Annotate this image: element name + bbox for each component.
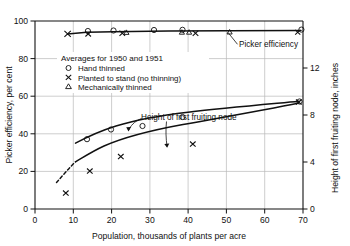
right-axis-ticks [303,68,308,209]
y-axis-title: Picker efficiency, per cent [4,66,14,164]
x-tick-label-40: 40 [183,215,193,225]
x-tick-label-50: 50 [222,215,232,225]
x-tick-label-60: 60 [260,215,270,225]
left-tick-label-80: 80 [18,54,28,64]
chart-svg: 0 20 40 60 80 100 0 4 8 12 0 10 20 30 40… [0,0,350,246]
left-axis-ticks [31,21,36,209]
left-tick-label-20: 20 [18,166,28,176]
x-tick-label-10: 10 [69,215,79,225]
legend: Averages for 1950 and 1951 Hand thinned … [57,52,209,93]
left-tick-label-60: 60 [18,91,28,101]
left-tick-label-0: 0 [23,204,28,214]
y2-axis-title: Height of first fruiting node, inches [330,63,340,193]
legend-label-mechanically-thinned: Mechanically thinned [78,83,152,92]
x-axis-ticks [35,209,303,214]
legend-label-hand-thinned: Hand thinned [78,64,125,73]
right-tick-label-4: 4 [310,157,315,167]
x-tick-label-20: 20 [107,215,117,225]
x-axis-tick-labels: 0 10 20 30 40 50 60 70 [33,215,308,225]
left-tick-label-40: 40 [18,129,28,139]
right-tick-label-8: 8 [310,110,315,120]
left-axis-tick-labels: 0 20 40 60 80 100 [14,16,29,214]
x-tick-label-0: 0 [33,215,38,225]
legend-label-planted-to-stand: Planted to stand (no thinning) [78,74,181,83]
x-tick-label-30: 30 [145,215,155,225]
right-tick-label-0: 0 [310,204,315,214]
x-axis-title: Population, thousands of plants per acre [92,231,246,241]
legend-title: Averages for 1950 and 1951 [61,54,164,63]
picker-efficiency-annotation: Picker efficiency [239,40,299,49]
chart-figure: 0 20 40 60 80 100 0 4 8 12 0 10 20 30 40… [0,0,350,246]
right-tick-label-12: 12 [310,63,320,73]
height-first-fruiting-node-annotation: Height of first fruiting node [141,113,237,122]
right-axis-tick-labels: 0 4 8 12 [310,63,320,214]
left-tick-label-100: 100 [14,16,29,26]
x-tick-label-70: 70 [298,215,308,225]
